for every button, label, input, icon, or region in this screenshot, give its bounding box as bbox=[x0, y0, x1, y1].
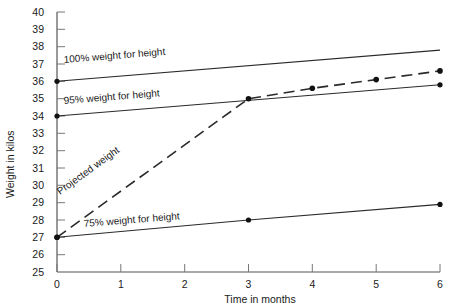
x-axis-title: Time in months bbox=[224, 293, 295, 305]
series-marker-projected-m6 bbox=[437, 68, 443, 74]
series-marker-75-percent-m3 bbox=[246, 217, 251, 222]
x-tick-label-5: 5 bbox=[373, 278, 379, 290]
x-tick-label-1: 1 bbox=[118, 278, 124, 290]
y-tick-label-27: 27 bbox=[32, 231, 44, 243]
y-tick-label-34: 34 bbox=[32, 110, 44, 122]
y-axis-title: Weight in kilos bbox=[4, 130, 16, 198]
x-tick-label-6: 6 bbox=[437, 278, 443, 290]
y-tick-label-29: 29 bbox=[32, 196, 44, 208]
series-label-100-percent: 100% weight for height bbox=[63, 46, 166, 65]
series-marker-projected-m0 bbox=[54, 235, 60, 241]
y-tick-label-32: 32 bbox=[32, 144, 44, 156]
y-tick-label-26: 26 bbox=[32, 248, 44, 260]
series-marker-projected-m3 bbox=[246, 96, 252, 102]
series-label-95-percent: 95% weight for height bbox=[63, 87, 160, 106]
growth-chart: 40 39 38 37 36 35 34 33 32 31 30 29 28 2… bbox=[0, 0, 455, 307]
y-tick-label-39: 39 bbox=[32, 23, 44, 35]
series-marker-projected-m4 bbox=[310, 86, 316, 92]
x-tick-label-0: 0 bbox=[54, 278, 60, 290]
series-label-75-percent: 75% weight for height bbox=[83, 210, 180, 229]
series-marker-95-percent-m0 bbox=[54, 113, 59, 118]
series-label-projected: Projected weight bbox=[55, 144, 122, 196]
y-tick-label-31: 31 bbox=[32, 162, 44, 174]
y-tick-label-33: 33 bbox=[32, 127, 44, 139]
x-tick-label-2: 2 bbox=[182, 278, 188, 290]
x-tick-label-3: 3 bbox=[246, 278, 252, 290]
y-tick-label-40: 40 bbox=[32, 6, 44, 18]
y-tick-label-25: 25 bbox=[32, 266, 44, 278]
series-marker-100-percent-m0 bbox=[54, 79, 59, 84]
y-tick-label-30: 30 bbox=[32, 179, 44, 191]
series-marker-75-percent-m6 bbox=[437, 202, 442, 207]
x-tick-label-4: 4 bbox=[309, 278, 315, 290]
y-tick-label-37: 37 bbox=[32, 58, 44, 70]
series-marker-95-percent-m6 bbox=[437, 82, 442, 87]
y-tick-label-36: 36 bbox=[32, 75, 44, 87]
series-marker-projected-m5 bbox=[373, 77, 379, 83]
chart-canvas: 40 39 38 37 36 35 34 33 32 31 30 29 28 2… bbox=[0, 0, 455, 307]
y-tick-label-35: 35 bbox=[32, 92, 44, 104]
y-tick-label-38: 38 bbox=[32, 40, 44, 52]
y-tick-label-28: 28 bbox=[32, 214, 44, 226]
